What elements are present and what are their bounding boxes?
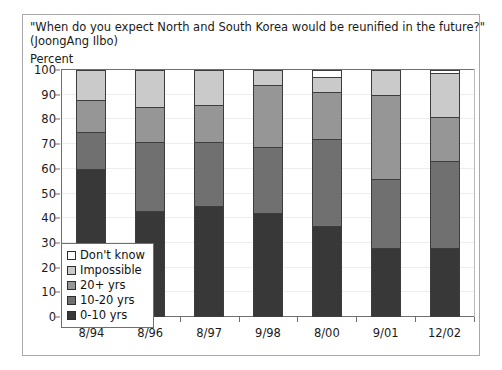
x-tick-label-9-98: 9/98 [238,326,298,340]
bar-segment-impossible[interactable] [430,73,460,117]
legend-label: 0-10 yrs [80,309,127,322]
y-tick-mark-20 [55,267,60,268]
x-tick-mark-3 [239,317,240,322]
legend-swatch-icon [67,266,76,275]
bar-segment-10-20-yrs[interactable] [253,147,283,214]
y-tick-mark-90 [55,94,60,95]
y-tick-mark-70 [55,144,60,145]
bar-segment-impossible[interactable] [194,70,224,105]
bar-segment-20-yrs[interactable] [194,105,224,142]
bar-segment-10-20-yrs[interactable] [312,139,342,225]
bar-8-00[interactable] [312,70,342,317]
bar-segment-20-yrs[interactable] [312,92,342,139]
legend-label: 10-20 yrs [80,294,135,307]
bar-9-98[interactable] [253,70,283,317]
legend-swatch-icon [67,281,76,290]
bar-segment-10-20-yrs[interactable] [430,161,460,247]
y-tick-mark-0 [55,317,60,318]
legend-item-impossible[interactable]: Impossible [67,263,145,278]
bar-segment-0-10-yrs[interactable] [253,213,283,317]
x-tick-label-8-96: 8/96 [120,326,180,340]
plot-right-border [474,69,475,318]
legend-item-10-20-yrs[interactable]: 10-20 yrs [67,293,145,308]
y-tick-mark-30 [55,242,60,243]
y-axis-tick-marks [0,70,62,317]
legend-swatch-icon [67,251,76,260]
bar-segment-20-yrs[interactable] [253,85,283,147]
y-tick-mark-60 [55,168,60,169]
bar-segment-10-20-yrs[interactable] [76,132,106,169]
bar-segment-0-10-yrs[interactable] [194,206,224,317]
legend-item-20-yrs[interactable]: 20+ yrs [67,278,145,293]
legend-swatch-icon [67,296,76,305]
bar-segment-impossible[interactable] [371,70,401,95]
bar-segment-20-yrs[interactable] [76,100,106,132]
bar-segment-20-yrs[interactable] [135,107,165,142]
y-tick-mark-10 [55,292,60,293]
x-tick-label-8-00: 8/00 [297,326,357,340]
bar-segment-20-yrs[interactable] [430,117,460,161]
bar-segment-10-20-yrs[interactable] [371,179,401,248]
bar-segment-don-t-know[interactable] [312,70,342,77]
y-tick-mark-40 [55,218,60,219]
chart-title: "When do you expect North and South Kore… [30,20,480,48]
bar-segment-10-20-yrs[interactable] [135,142,165,211]
chart-legend: Don't knowImpossible20+ yrs10-20 yrs0-10… [61,243,154,328]
x-tick-label-8-97: 8/97 [179,326,239,340]
x-tick-label-8-94: 8/94 [61,326,121,340]
x-tick-label-12-02: 12/02 [415,326,475,340]
bar-segment-20-yrs[interactable] [371,95,401,179]
bar-9-01[interactable] [371,70,401,317]
x-tick-mark-2 [180,317,181,322]
bar-12-02[interactable] [430,70,460,317]
legend-item-0-10-yrs[interactable]: 0-10 yrs [67,308,145,323]
legend-label: 20+ yrs [80,279,125,292]
bar-segment-0-10-yrs[interactable] [430,248,460,317]
x-axis-tick-labels: 8/948/968/979/988/009/0112/02 [62,326,475,344]
bar-segment-0-10-yrs[interactable] [371,248,401,317]
x-tick-mark-6 [415,317,416,322]
chart-title-line-1: "When do you expect North and South Kore… [30,20,480,34]
y-tick-mark-80 [55,119,60,120]
bar-segment-impossible[interactable] [253,70,283,85]
chart-title-line-2: (JoongAng Ilbo) [30,34,480,48]
legend-label: Don't know [80,249,145,262]
legend-swatch-icon [67,311,76,320]
x-tick-mark-5 [356,317,357,322]
legend-label: Impossible [80,264,142,277]
bar-segment-0-10-yrs[interactable] [312,226,342,317]
bar-8-97[interactable] [194,70,224,317]
y-tick-mark-100 [55,70,60,71]
x-tick-mark-4 [297,317,298,322]
chart-screenshot: "When do you expect North and South Kore… [0,0,502,370]
bar-segment-impossible[interactable] [135,70,165,107]
bar-segment-impossible[interactable] [76,70,106,100]
bar-segment-impossible[interactable] [312,77,342,92]
x-tick-label-9-01: 9/01 [356,326,416,340]
legend-item-don-t-know[interactable]: Don't know [67,248,145,263]
bar-segment-10-20-yrs[interactable] [194,142,224,206]
x-tick-mark-7 [474,317,475,322]
y-tick-mark-50 [55,193,60,194]
